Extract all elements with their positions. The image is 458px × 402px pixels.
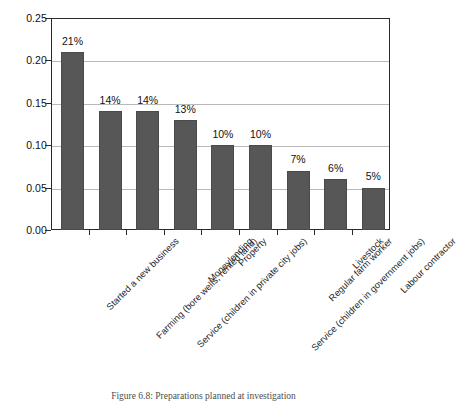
bar-group: 10% (204, 18, 242, 230)
bar[interactable] (362, 188, 385, 230)
y-tick-label: 0.15 (1, 98, 47, 108)
bar[interactable] (99, 111, 122, 230)
bar[interactable] (61, 52, 84, 230)
bar[interactable] (287, 171, 310, 230)
y-tick-label: 0.05 (1, 183, 47, 193)
bar-group: 10% (242, 18, 280, 230)
y-tick-mark (45, 230, 51, 231)
x-tick-mark (277, 230, 278, 235)
bar-group: 5% (355, 18, 393, 230)
y-tick-label: 0.20 (1, 55, 47, 65)
x-tick-mark (314, 230, 315, 235)
bar-value-label: 10% (202, 129, 243, 140)
bar[interactable] (249, 145, 272, 230)
x-tick-mark (201, 230, 202, 235)
x-tick-mark (126, 230, 127, 235)
figure-caption: Figure 6.8: Preparations planned at inve… (0, 391, 407, 402)
bar[interactable] (211, 145, 234, 230)
bar-group: 21% (54, 18, 92, 230)
bar-group: 6% (317, 18, 355, 230)
x-axis-labels: Started a new business Farming (bore wel… (0, 236, 407, 386)
bar-group: 14% (129, 18, 167, 230)
x-tick-mark (239, 230, 240, 235)
bar-value-label: 13% (165, 104, 206, 115)
bar[interactable] (174, 120, 197, 230)
x-tick-mark (89, 230, 90, 235)
bar[interactable] (136, 111, 159, 230)
bar-value-label: 21% (52, 36, 93, 47)
y-tick-label: 0.25 (1, 13, 47, 23)
bars-layer: 21% 14% 14% 13% 10% 10% 7% 6% (51, 18, 390, 230)
bar-group: 7% (280, 18, 318, 230)
bar-value-label: 6% (315, 163, 356, 174)
bar-value-label: 7% (278, 154, 319, 165)
x-tick-mark (352, 230, 353, 235)
y-tick-label: 0.00 (1, 225, 47, 235)
bar-value-label: 14% (127, 95, 168, 106)
bar-group: 14% (92, 18, 130, 230)
bar-value-label: 10% (240, 129, 281, 140)
x-tick-mark (164, 230, 165, 235)
y-tick-label: 0.10 (1, 140, 47, 150)
x-tick-label-labour-contractor: Labour contractor (398, 236, 457, 295)
bar-group: 13% (167, 18, 205, 230)
bar-value-label: 14% (90, 95, 131, 106)
x-tick-label-started-a-new-business: Started a new business (105, 236, 181, 312)
bar-value-label: 5% (353, 171, 394, 182)
bar[interactable] (324, 179, 347, 230)
